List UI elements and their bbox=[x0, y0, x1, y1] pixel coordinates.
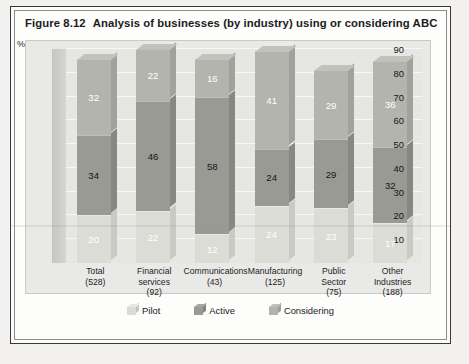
legend-swatch-top bbox=[269, 304, 282, 307]
bar-stack: 165812 bbox=[195, 59, 229, 263]
x-label-other-industries: Other Industries (188) bbox=[363, 263, 422, 298]
x-label-line2: Sector bbox=[304, 277, 363, 288]
bar-segment-considering[interactable]: 22 bbox=[136, 49, 170, 101]
bar-value-label: 36 bbox=[385, 99, 396, 110]
legend-label: Pilot bbox=[142, 305, 160, 316]
bar-segment-considering[interactable]: 29 bbox=[314, 70, 348, 139]
bar-segment-pilot[interactable]: 24 bbox=[255, 206, 289, 263]
legend-item-pilot[interactable]: Pilot bbox=[127, 305, 160, 316]
legend-item-considering[interactable]: Considering bbox=[269, 305, 334, 316]
bar-segment-active[interactable]: 29 bbox=[314, 139, 348, 208]
legend-swatch-pilot bbox=[127, 307, 136, 315]
bar-segment-side-face bbox=[111, 209, 117, 260]
x-label-line2: services bbox=[125, 277, 184, 288]
bar-segment-pilot[interactable]: 12 bbox=[195, 234, 229, 263]
y-tick-80: 80 bbox=[380, 67, 404, 78]
bar-segment-active[interactable]: 58 bbox=[195, 97, 229, 235]
legend-label: Active bbox=[209, 305, 235, 316]
bar-value-label: 20 bbox=[88, 234, 99, 245]
bar-segment-side-face bbox=[348, 64, 354, 137]
y-tick-90: 90 bbox=[380, 44, 404, 55]
bar-stack: 224622 bbox=[136, 49, 170, 263]
bar-stack: 323420 bbox=[77, 59, 111, 263]
bar-segment-side-face bbox=[348, 133, 354, 206]
bar-segment-top-face bbox=[373, 56, 415, 62]
bar-segment-side-face bbox=[289, 199, 295, 260]
bar-segment-side-face bbox=[229, 90, 235, 232]
legend-swatch-side bbox=[278, 302, 281, 312]
bar-segment-side-face bbox=[289, 45, 295, 146]
bar-value-label: 22 bbox=[148, 70, 159, 81]
y-tick-20: 20 bbox=[380, 210, 404, 221]
bar-segment-side-face bbox=[229, 52, 235, 94]
bar-value-label: 24 bbox=[266, 229, 277, 240]
bar-group-public-sector[interactable]: 292923 bbox=[314, 49, 352, 263]
x-label-line1: Manufacturing bbox=[246, 266, 305, 277]
bar-value-label: 34 bbox=[88, 170, 99, 181]
x-label-total: Total (528) bbox=[66, 263, 125, 287]
x-label-line1: Public bbox=[304, 266, 363, 277]
y-axis-unit-label: % bbox=[17, 39, 25, 49]
bar-value-label: 46 bbox=[148, 151, 159, 162]
x-label-line1: Communications bbox=[184, 266, 246, 277]
chart-panel: % 323420224622165812412424292923363217 9… bbox=[25, 40, 431, 294]
figure-number: Figure 8.12 bbox=[25, 17, 86, 29]
x-axis-labels: Total (528) Financial services (92) Comm… bbox=[66, 263, 422, 293]
bar-segment-top-face bbox=[77, 54, 119, 60]
bar-segment-pilot[interactable]: 23 bbox=[314, 208, 348, 263]
bar-segment-pilot[interactable]: 20 bbox=[77, 215, 111, 263]
bar-value-label: 32 bbox=[385, 180, 396, 191]
x-label-line2: (125) bbox=[246, 277, 305, 288]
x-label-communications: Communications (43) bbox=[184, 263, 246, 287]
bar-segment-pilot[interactable]: 22 bbox=[136, 211, 170, 263]
x-label-line3: (188) bbox=[363, 287, 422, 298]
bar-group-communications[interactable]: 165812 bbox=[195, 49, 233, 263]
bar-series-container: 323420224622165812412424292923363217 bbox=[66, 49, 422, 263]
bar-value-label: 12 bbox=[207, 244, 218, 255]
x-label-line1: Other bbox=[363, 266, 422, 277]
bar-value-label: 22 bbox=[148, 232, 159, 243]
bar-stack: 412424 bbox=[255, 51, 289, 263]
bar-segment-active[interactable]: 46 bbox=[136, 101, 170, 210]
bar-value-label: 41 bbox=[266, 95, 277, 106]
x-label-line2: (43) bbox=[184, 277, 246, 288]
legend-swatch-active bbox=[194, 307, 203, 315]
bar-segment-side-face bbox=[170, 42, 176, 98]
x-label-line1: Financial bbox=[125, 266, 184, 277]
bar-segment-considering[interactable]: 16 bbox=[195, 59, 229, 97]
page-background: Figure 8.12Analysis of businesses (by in… bbox=[0, 0, 469, 364]
bar-segment-considering[interactable]: 32 bbox=[77, 59, 111, 135]
bar-group-total[interactable]: 323420 bbox=[77, 49, 115, 263]
bar-group-financial-services[interactable]: 224622 bbox=[136, 49, 174, 263]
x-label-line3: (92) bbox=[125, 287, 184, 298]
bar-segment-side-face bbox=[407, 54, 413, 143]
bar-group-other-industries[interactable]: 363217 bbox=[373, 49, 411, 263]
bar-segment-top-face bbox=[255, 46, 297, 52]
y-tick-60: 60 bbox=[380, 115, 404, 126]
bar-segment-active[interactable]: 24 bbox=[255, 149, 289, 206]
bar-segment-side-face bbox=[229, 228, 235, 260]
bar-segment-side-face bbox=[111, 52, 117, 132]
bar-value-label: 32 bbox=[88, 92, 99, 103]
y-tick-40: 40 bbox=[380, 162, 404, 173]
legend-item-active[interactable]: Active bbox=[194, 305, 235, 316]
x-label-manufacturing: Manufacturing (125) bbox=[246, 263, 305, 287]
legend-swatch-side bbox=[136, 302, 139, 312]
x-label-financial-services: Financial services (92) bbox=[125, 263, 184, 298]
bar-segment-active[interactable]: 34 bbox=[77, 135, 111, 216]
bar-segment-considering[interactable]: 41 bbox=[255, 51, 289, 148]
bar-segment-side-face bbox=[348, 202, 354, 260]
bar-value-label: 58 bbox=[207, 161, 218, 172]
bar-value-label: 23 bbox=[326, 231, 337, 242]
plot-area: 323420224622165812412424292923363217 bbox=[66, 49, 422, 263]
bar-value-label: 16 bbox=[207, 73, 218, 84]
bar-stack: 292923 bbox=[314, 70, 348, 263]
x-label-line2: Industries bbox=[363, 277, 422, 288]
legend-swatch-top bbox=[194, 304, 207, 307]
bar-value-label: 29 bbox=[326, 169, 337, 180]
figure-frame: Figure 8.12Analysis of businesses (by in… bbox=[10, 6, 451, 344]
bar-segment-side-face bbox=[111, 128, 117, 213]
bar-segment-side-face bbox=[170, 204, 176, 260]
bar-group-manufacturing[interactable]: 412424 bbox=[255, 49, 293, 263]
x-label-line1: Total bbox=[66, 266, 125, 277]
